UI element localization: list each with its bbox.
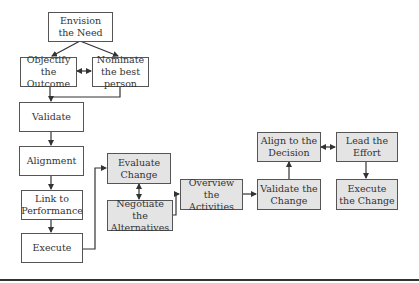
node-lead-the-effort: Lead the Effort [336, 132, 398, 162]
node-negotiate-the-alternatives: Negotiate the Alternatives [107, 200, 173, 231]
node-align-to-the-decision: Align to the Decision [257, 132, 321, 162]
node-alignment: Alignment [19, 146, 84, 176]
node-evaluate-change: Evaluate Change [107, 153, 171, 184]
node-overview-the-activities: Overview the Activities [180, 179, 243, 210]
node-link-to-performance: Link to Performance [21, 190, 83, 220]
node-nominate-the-best-person: Nominate the best person [92, 57, 149, 87]
node-validate: Validate [19, 102, 84, 132]
bottom-rule [0, 279, 419, 281]
node-envision-the-need: Envision the Need [48, 12, 113, 42]
arrow-negotiate-overview [172, 194, 179, 215]
node-objectify-the-outcome: Objectify the Outcome [20, 57, 77, 87]
arrow-execute-evaluate [82, 168, 106, 249]
node-execute: Execute [21, 233, 83, 263]
node-execute-the-change: Execute the Change [336, 179, 398, 210]
node-validate-the-change: Validate the Change [257, 179, 321, 210]
